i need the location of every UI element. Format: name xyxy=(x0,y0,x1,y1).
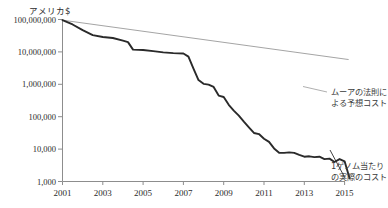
x-axis-ticks: 2001 2003 2005 2007 2009 2011 2013 2015 xyxy=(54,182,355,199)
y-tick-label: 100,000,000 xyxy=(14,15,57,25)
y-axis-ticks: 100,000,000 10,000,000 1,000,000 100,000… xyxy=(14,15,63,187)
actual-cost-label-line1: 1ゲノム当たり xyxy=(331,161,384,171)
y-tick-label: 1,000,000 xyxy=(22,79,56,89)
x-tick-label: 2005 xyxy=(134,188,153,198)
x-tick-label: 2007 xyxy=(174,188,193,198)
series-line-moore-law xyxy=(63,20,349,59)
series-line-actual-cost xyxy=(63,20,350,178)
x-tick-label: 2001 xyxy=(54,188,72,198)
x-tick-label: 2015 xyxy=(336,188,355,198)
chart-canvas: アメリカ$ 100,000,000 10,000,000 1,000,000 1… xyxy=(0,0,388,208)
x-tick-label: 2013 xyxy=(295,188,314,198)
x-tick-label: 2009 xyxy=(215,188,234,198)
y-tick-label: 10,000,000 xyxy=(18,47,56,57)
y-tick-label: 1,000 xyxy=(37,177,56,187)
genome-sequencing-cost-chart: アメリカ$ 100,000,000 10,000,000 1,000,000 1… xyxy=(0,0,388,208)
actual-cost-annotation: 1ゲノム当たり の実際のコスト xyxy=(331,161,387,182)
moore-law-leader-line xyxy=(303,87,327,93)
y-tick-label: 10,000 xyxy=(33,144,56,154)
moore-law-label-line2: よる予想コスト xyxy=(331,98,387,108)
actual-cost-label-line2: の実際のコスト xyxy=(331,172,387,182)
moore-law-label-line1: ムーアの法則に xyxy=(331,87,387,97)
x-tick-label: 2003 xyxy=(94,188,113,198)
y-tick-label: 100,000 xyxy=(28,112,56,122)
moore-law-annotation: ムーアの法則に よる予想コスト xyxy=(331,87,387,108)
x-tick-label: 2011 xyxy=(255,188,273,198)
